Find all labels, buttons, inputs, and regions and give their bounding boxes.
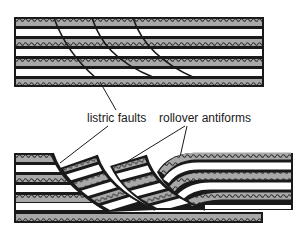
cross-section-diagram: [0, 0, 300, 237]
label-rollover-antiforms: rollover antiforms: [159, 112, 251, 124]
label-listric-faults: listric faults: [87, 112, 146, 124]
